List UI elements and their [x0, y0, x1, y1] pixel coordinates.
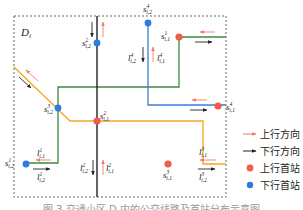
legend-up-station-icon — [247, 165, 254, 172]
up-direction-arrow — [26, 70, 38, 81]
station-label-s2-i2: s2i,2 — [82, 37, 91, 49]
station-label-s1-i2: s1i,2 — [5, 157, 14, 169]
up-station-s1-i1 — [175, 33, 182, 40]
legend-down-station-icon — [247, 182, 253, 188]
down-station-s3-i2 — [55, 105, 62, 112]
line-label-l4-i1: l4i,1 — [157, 52, 165, 64]
line-label-l3-i1: l3i,1 — [199, 146, 207, 158]
region-label: Di — [20, 26, 31, 40]
down-station-s1-i2 — [23, 161, 30, 168]
legend-label-down-direction: 下行方向 — [260, 145, 300, 157]
line-label-l1-i2: l1i,2 — [37, 171, 45, 183]
route-line-blue — [148, 23, 226, 105]
legend-label-up-direction: 上行方向 — [260, 128, 300, 140]
legend-label-down-station: 下行首站 — [260, 179, 300, 191]
up-station-s3-i1 — [164, 160, 171, 167]
station-label-s3-i2: s3i,2 — [44, 103, 53, 115]
route-line-orange — [14, 67, 226, 164]
up-station-s4-i1 — [214, 102, 221, 109]
station-label-s4-i1: s4i,1 — [226, 101, 235, 113]
station-label-s1-i1: s1i,1 — [161, 30, 170, 42]
figure-caption: 图 3 交通小区 D 内的公交线路及首站分布示意图 — [0, 201, 303, 210]
line-label-l4-i2: l4i,2 — [128, 52, 136, 64]
down-station-s4-i2 — [145, 20, 152, 27]
legend: 上行方向 下行方向 上行首站 下行首站 — [243, 128, 300, 191]
line-label-l1-i1: l1i,1 — [37, 147, 45, 159]
legend-label-up-station: 上行首站 — [260, 162, 300, 174]
station-label-s3-i1: s3i,1 — [163, 169, 172, 181]
line-label-l3-i2: l3i,2 — [199, 171, 207, 183]
station-label-s2-i1: s2i,1 — [100, 110, 109, 122]
line-label-l2-i2: l2i,2 — [80, 162, 88, 174]
station-label-s4-i2: s4i,2 — [143, 3, 152, 15]
transit-diagram: Di s1i,1 s2i,1 s3i,1 s4i,1 s1i,2 s2i,2 s… — [0, 0, 303, 210]
down-station-s2-i2 — [94, 40, 101, 47]
line-label-l2-i1: l2i,1 — [106, 162, 114, 174]
